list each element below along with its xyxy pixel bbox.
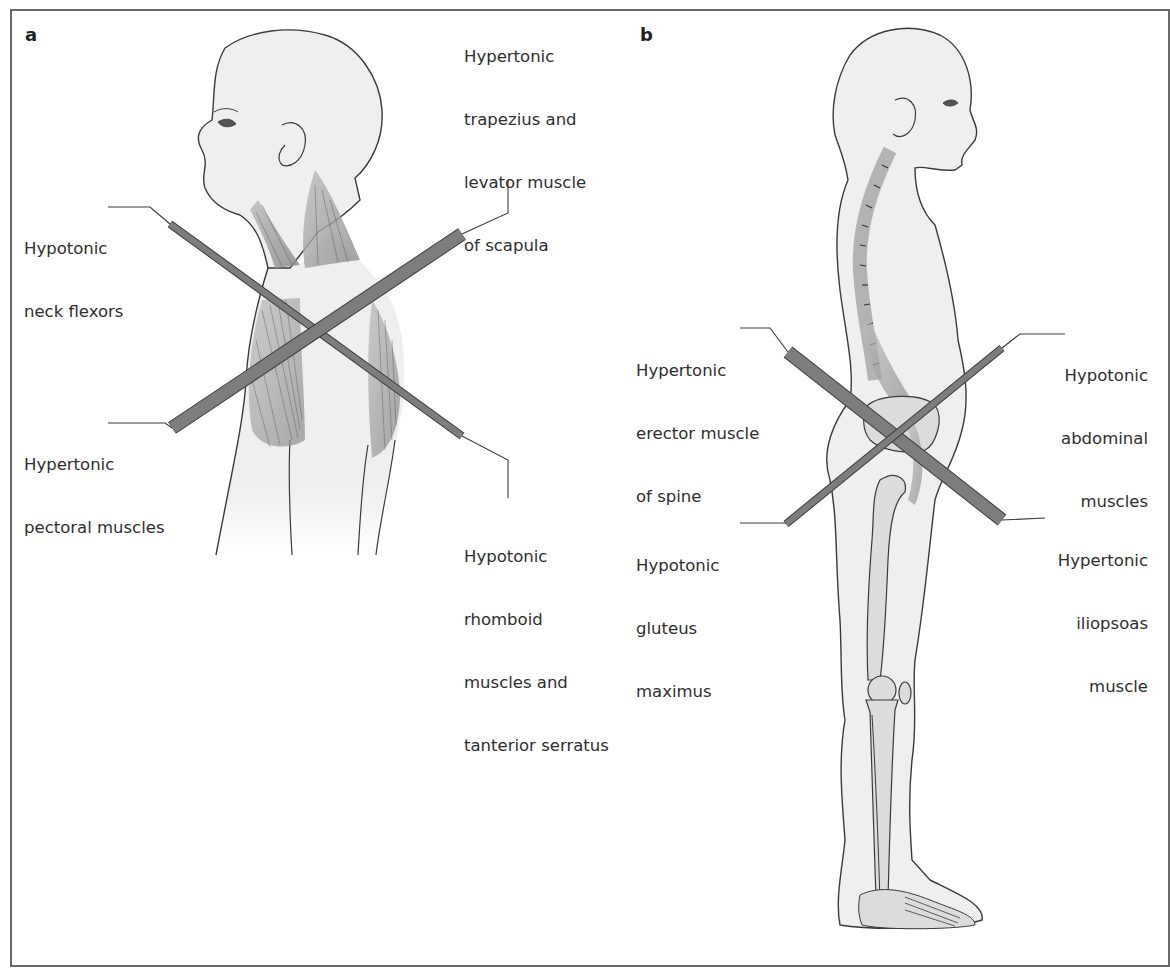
label-line: Hypotonic xyxy=(24,238,123,259)
label-hypotonic-rhomboid: Hypotonic rhomboid muscles and tanterior… xyxy=(464,504,609,777)
label-line: muscles and xyxy=(464,672,609,693)
label-line: iliopsoas xyxy=(1040,613,1148,634)
label-line: Hypertonic xyxy=(464,46,586,67)
label-line: rhomboid xyxy=(464,609,609,630)
label-hypertonic-trapezius: Hypertonic trapezius and levator muscle … xyxy=(464,4,586,277)
label-hypotonic-abdominal: Hypotonic abdominal muscles xyxy=(1040,323,1148,533)
panel-a-letter: a xyxy=(25,24,37,45)
label-line: neck flexors xyxy=(24,301,123,322)
label-hypotonic-neck-flexors: Hypotonic neck flexors xyxy=(24,196,123,343)
label-line: muscle xyxy=(1040,676,1148,697)
panel-b-figure xyxy=(740,28,1065,928)
label-hypertonic-erector: Hypertonic erector muscle of spine xyxy=(636,318,759,528)
label-line: Hypertonic xyxy=(24,454,165,475)
label-line: trapezius and xyxy=(464,109,586,130)
panel-b-letter: b xyxy=(640,24,653,45)
label-hypertonic-pectoral: Hypertonic pectoral muscles xyxy=(24,412,165,559)
label-line: Hypotonic xyxy=(1040,365,1148,386)
label-line: gluteus xyxy=(636,618,719,639)
label-line: abdominal xyxy=(1040,428,1148,449)
label-line: maximus xyxy=(636,681,719,702)
label-line: Hypotonic xyxy=(464,546,609,567)
panel-a-figure xyxy=(108,30,508,555)
label-line: erector muscle xyxy=(636,423,759,444)
label-hypotonic-gluteus: Hypotonic gluteus maximus xyxy=(636,513,719,723)
label-line: of spine xyxy=(636,486,759,507)
label-line: levator muscle xyxy=(464,172,586,193)
label-line: of scapula xyxy=(464,235,586,256)
label-line: pectoral muscles xyxy=(24,517,165,538)
label-line: Hypertonic xyxy=(1040,550,1148,571)
label-line: Hypotonic xyxy=(636,555,719,576)
label-hypertonic-iliopsoas: Hypertonic iliopsoas muscle xyxy=(1040,508,1148,718)
label-line: Hypertonic xyxy=(636,360,759,381)
label-line: tanterior serratus xyxy=(464,735,609,756)
